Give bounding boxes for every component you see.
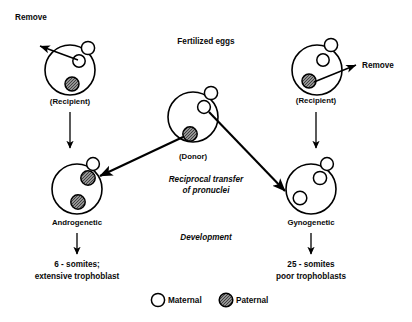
diagram-canvas: Fertilized eggs (Recipient) Remove (Reci…	[0, 0, 412, 322]
maternal-pronucleus-resident	[313, 171, 326, 184]
outcome-right-line2: poor trophoblasts	[276, 272, 346, 281]
process-label-line1: Reciprocal transfer	[169, 175, 244, 184]
cell-donor: (Donor)	[168, 86, 218, 161]
cell-right-recipient-label: (Recipient)	[296, 96, 337, 105]
polar-body-maternal	[81, 41, 94, 54]
cell-gynogenetic: Gynogenetic	[286, 158, 336, 227]
pronuclear-transfer-diagram: Fertilized eggs (Recipient) Remove (Reci…	[0, 0, 412, 322]
polar-body-maternal	[324, 38, 337, 51]
legend-maternal-swatch-icon	[151, 293, 164, 306]
cell-androgenetic: Androgenetic	[52, 158, 103, 227]
maternal-pronucleus	[73, 55, 85, 67]
paternal-pronucleus-resident	[71, 195, 85, 209]
cell-donor-label: (Donor)	[179, 152, 208, 161]
outcome-left-line1: 6 - somites;	[54, 260, 100, 269]
maternal-pronucleus-transferred	[293, 191, 307, 205]
paternal-pronucleus-transferred	[81, 171, 95, 185]
legend: Maternal Paternal	[151, 293, 268, 307]
cell-gynogenetic-label: Gynogenetic	[287, 218, 335, 227]
cell-left-recipient-label: (Recipient)	[50, 97, 91, 106]
outcome-right-line1: 25 - somites	[287, 260, 335, 269]
polar-body-maternal	[321, 158, 334, 171]
maternal-pronucleus	[198, 101, 211, 114]
legend-maternal-label: Maternal	[168, 296, 202, 305]
cell-membrane	[286, 164, 336, 214]
outcome-left-line2: extensive trophoblast	[35, 272, 120, 281]
remove-label-right: Remove	[362, 61, 394, 70]
polar-body-maternal	[204, 86, 217, 99]
cell-androgenetic-label: Androgenetic	[52, 218, 103, 227]
transfer-arrow-paternal-to-androgenetic	[100, 137, 183, 176]
paternal-pronucleus	[65, 77, 79, 91]
maternal-pronucleus	[317, 54, 329, 66]
cell-membrane	[292, 45, 342, 95]
diagram-title: Fertilized eggs	[177, 37, 235, 46]
legend-paternal-label: Paternal	[236, 296, 268, 305]
polar-body-maternal	[87, 158, 100, 171]
paternal-pronucleus	[183, 127, 197, 141]
paternal-pronucleus	[302, 74, 316, 88]
cell-right-recipient: (Recipient)	[292, 38, 342, 105]
remove-label-left: Remove	[15, 13, 47, 22]
development-label: Development	[180, 233, 232, 242]
legend-paternal-swatch-icon	[219, 293, 233, 307]
process-label-line2: of pronuclei	[183, 186, 231, 195]
